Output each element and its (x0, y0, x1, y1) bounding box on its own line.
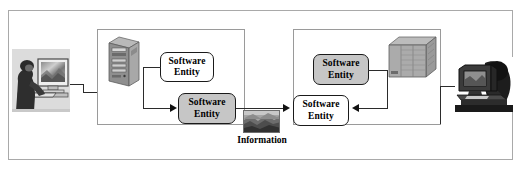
connector-right-upper-entity-out (368, 70, 388, 71)
entity-left-upper-line2: Entity (174, 67, 200, 79)
entity-right-lower[interactable]: Software Entity (293, 95, 349, 126)
entity-right-lower-line1: Software (302, 99, 339, 111)
diagram-canvas: Software Entity Software Entity Informat… (0, 0, 527, 175)
connector-left-upper-to-lower-entity (143, 108, 171, 109)
entity-left-lower-line2: Entity (194, 109, 220, 121)
arrowhead-right-lower-entity-in (283, 104, 290, 112)
entity-left-upper[interactable]: Software Entity (160, 52, 214, 82)
user-at-workstation-photo (12, 49, 70, 112)
entity-right-upper-line1: Software (322, 58, 359, 70)
entity-left-upper-line1: Software (168, 56, 205, 68)
entity-right-lower-line2: Entity (308, 111, 334, 123)
connector-information-to-right-entity (248, 108, 284, 109)
connector-right-upper-to-lower-entity (359, 108, 388, 109)
tower-server-icon (106, 36, 140, 90)
user-at-monitor-photo (455, 57, 513, 112)
entity-right-upper[interactable]: Software Entity (313, 54, 369, 85)
arrowhead-left-lower-entity-in (170, 104, 177, 112)
information-thumbnail-image (243, 110, 280, 133)
connector-user-to-left-host-seg3 (83, 92, 98, 93)
entity-left-lower-line1: Software (188, 97, 225, 109)
entity-right-upper-line2: Entity (328, 70, 354, 82)
rack-server-icon (387, 36, 437, 80)
entity-left-lower[interactable]: Software Entity (178, 93, 236, 124)
arrowhead-right-lower-entity-from-upper (352, 104, 359, 112)
connector-left-host-to-upper-entity (143, 67, 161, 68)
connector-right-host-to-user-seg1 (440, 86, 441, 124)
information-label: Information (216, 135, 308, 145)
connector-left-upper-entity-drop (143, 67, 144, 109)
connector-user-to-left-host-seg1 (70, 84, 84, 85)
